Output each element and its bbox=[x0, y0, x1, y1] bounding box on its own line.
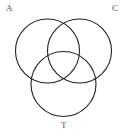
set-label-a: A bbox=[6, 4, 13, 13]
circle-t bbox=[31, 52, 96, 117]
set-label-t: T bbox=[61, 121, 67, 130]
set-label-c: C bbox=[112, 4, 118, 13]
venn-diagram bbox=[0, 0, 130, 132]
